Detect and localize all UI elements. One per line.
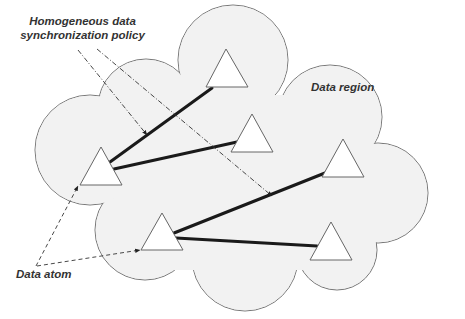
data-atom-label: Data atom [16, 267, 72, 281]
policy-label-line1: Homogeneous data [20, 14, 145, 28]
policy-label: Homogeneous data synchronization policy [20, 14, 145, 42]
diagram-canvas: Homogeneous data synchronization policy … [0, 0, 465, 319]
policy-label-line2: synchronization policy [20, 28, 145, 42]
data-region-label: Data region [311, 80, 374, 94]
